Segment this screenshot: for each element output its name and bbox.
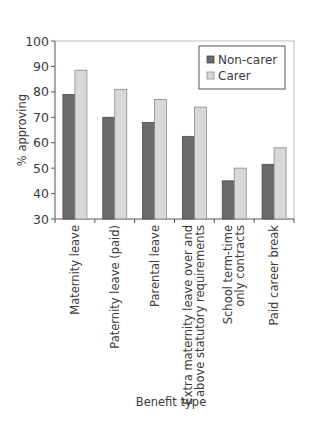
y-tick-label: 40 xyxy=(33,186,49,201)
bar-carer xyxy=(234,168,246,219)
y-axis-label: % approving xyxy=(15,94,29,166)
bar-non-carer xyxy=(103,117,115,219)
legend-swatch xyxy=(207,72,214,79)
y-tick-label: 80 xyxy=(33,84,49,99)
x-axis: Maternity leavePaternity leave (paid)Par… xyxy=(55,219,294,405)
bar-non-carer xyxy=(262,164,274,219)
x-tick-label: Paid career break xyxy=(267,225,281,326)
x-tick-label: Paternity leave (paid) xyxy=(108,225,122,349)
bar-non-carer xyxy=(222,181,234,219)
bars xyxy=(63,70,286,219)
bar-carer xyxy=(115,89,127,219)
y-axis: 30405060708090100 xyxy=(25,34,55,227)
x-tick-label: above statutory requirements xyxy=(193,225,207,397)
legend-label: Non-carer xyxy=(218,53,277,67)
y-tick-label: 70 xyxy=(33,110,49,125)
legend-swatch xyxy=(207,56,214,63)
bar-carer xyxy=(155,99,167,219)
bar-carer xyxy=(75,70,87,219)
x-tick-label: Parental leave xyxy=(148,225,162,307)
bar-non-carer xyxy=(143,122,155,219)
y-tick-label: 50 xyxy=(33,161,49,176)
bar-chart: 30405060708090100 Maternity leavePaterni… xyxy=(0,0,313,436)
y-tick-label: 60 xyxy=(33,135,49,150)
y-tick-label: 90 xyxy=(33,59,49,74)
bar-non-carer xyxy=(182,136,194,219)
bar-non-carer xyxy=(63,94,75,219)
y-tick-label: 100 xyxy=(25,34,49,49)
bar-carer xyxy=(194,107,206,219)
legend-label: Carer xyxy=(218,69,251,83)
x-axis-label: Benefit type xyxy=(136,395,206,409)
x-tick-label: Maternity leave xyxy=(68,225,82,315)
x-tick-label: only contracts xyxy=(233,225,247,307)
y-tick-label: 30 xyxy=(33,212,49,227)
legend: Non-carerCarer xyxy=(199,46,285,89)
bar-carer xyxy=(274,148,286,219)
